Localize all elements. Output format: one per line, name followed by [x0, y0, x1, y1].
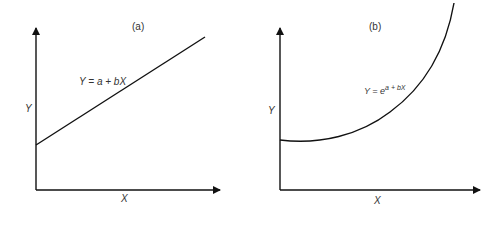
- figure-canvas: [0, 0, 500, 252]
- panel-b-x-label: X: [374, 195, 381, 206]
- panel-a-title: (a): [132, 21, 144, 32]
- panel-a-x-label: X: [121, 193, 128, 204]
- panel-a-y-label: Y: [25, 103, 32, 114]
- panel-a-equation: Y = a + bX: [79, 76, 126, 87]
- panel-a-linear-line: [36, 37, 205, 145]
- panel-b-exponential-curve: [280, 3, 454, 141]
- panel-a-chart: [36, 28, 220, 190]
- panel-b-y-label: Y: [268, 105, 275, 116]
- panel-b-equation-exponent: a + bX: [385, 84, 405, 91]
- panel-b-title: (b): [369, 21, 381, 32]
- panel-b-equation-base: Y = e: [364, 86, 385, 96]
- panel-b-equation: Y = ea + bX: [364, 84, 406, 96]
